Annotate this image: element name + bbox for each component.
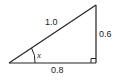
right-angle-marker xyxy=(91,59,96,64)
angle-label: x xyxy=(36,50,41,60)
hypotenuse-label: 1.0 xyxy=(45,17,58,27)
vertical-side-label: 0.6 xyxy=(99,29,112,39)
angle-arc xyxy=(32,48,36,63)
hypotenuse-line xyxy=(9,5,96,63)
horizontal-side-label: 0.8 xyxy=(51,65,64,75)
triangle-diagram: 1.0 0.6 0.8 x xyxy=(0,0,119,81)
